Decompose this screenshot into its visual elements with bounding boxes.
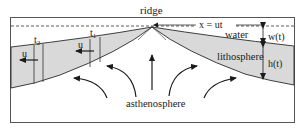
water-label: water	[225, 29, 249, 40]
spreading-diagram: ridge x = ut water w(t) lithosphere h(t)…	[0, 0, 305, 128]
flow-arrow-left	[107, 66, 136, 97]
flow-arrow-far-right	[204, 78, 236, 98]
ridge-label: ridge	[140, 4, 163, 16]
water-depth-label: w(t)	[268, 31, 285, 43]
flow-arrow-far-left	[74, 78, 107, 98]
distance-label: x = ut	[199, 19, 223, 30]
asthenosphere-label: asthenosphere	[126, 98, 186, 109]
velocity-label-left-2: u	[78, 39, 83, 50]
flow-arrow-right	[169, 66, 197, 96]
lithosphere-label: lithosphere	[217, 51, 264, 62]
lithosphere-thickness-label: h(t)	[268, 58, 282, 70]
velocity-label-left-1: u	[22, 48, 27, 59]
